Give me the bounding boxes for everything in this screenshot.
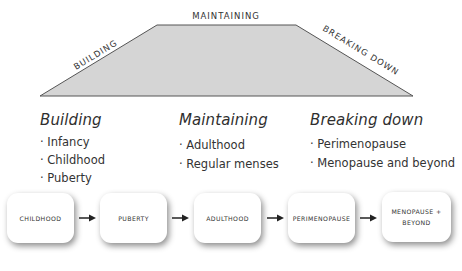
arrow-right-icon <box>267 214 284 222</box>
list-item: · Regular menses <box>179 155 279 174</box>
column-maintaining: Maintaining · Adulthood · Regular menses <box>179 111 279 174</box>
column-title: Breaking down <box>310 111 455 129</box>
arrow-right-icon <box>360 214 377 222</box>
flow-box-puberty: PUBERTY <box>100 193 167 243</box>
list-item: · Puberty <box>40 169 105 187</box>
column-breaking-down: Breaking down · Perimenopause · Menopaus… <box>310 111 455 173</box>
flow-box-menopause-beyond: MENOPAUSE +BEYOND <box>382 192 451 242</box>
list-item: · Adulthood <box>179 136 279 155</box>
label-maintaining: MAINTAINING <box>192 11 260 21</box>
column-title: Maintaining <box>179 111 279 129</box>
flow-box-perimenopause: PERIMENOPAUSE <box>288 193 355 243</box>
list-item: · Menopause and beyond <box>310 154 455 173</box>
list-item: · Childhood <box>40 151 105 169</box>
column-title: Building <box>40 111 105 129</box>
flow-box-childhood: CHILDHOOD <box>7 193 74 243</box>
arrow-right-icon <box>172 214 189 222</box>
list-item: · Infancy <box>40 133 105 151</box>
column-building: Building · Infancy · Childhood · Puberty <box>40 111 105 187</box>
life-stage-trapezoid: BUILDING MAINTAINING BREAKING DOWN <box>0 0 462 110</box>
flow-box-adulthood: ADULTHOOD <box>194 193 261 243</box>
arrow-right-icon <box>79 214 96 222</box>
list-item: · Perimenopause <box>310 135 455 154</box>
